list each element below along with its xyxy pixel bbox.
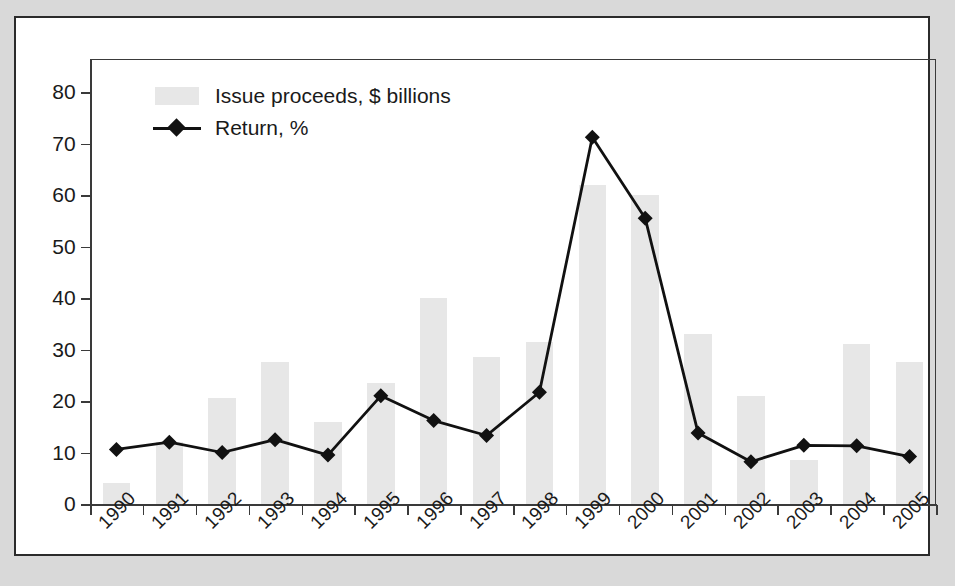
legend-item-label: Issue proceeds, $ billions	[215, 84, 451, 108]
x-axis-tick-mark	[883, 505, 885, 515]
y-axis-tick-mark	[81, 195, 90, 197]
x-axis-tick-mark	[619, 505, 621, 515]
x-axis-tick-mark	[249, 505, 251, 515]
chart-card: 01020304050607080 1990199119921993199419…	[14, 16, 930, 556]
x-axis-tick-mark	[672, 505, 674, 515]
diamond-marker-icon	[585, 130, 600, 145]
y-axis-tick-mark	[81, 298, 90, 300]
y-axis-tick-mark	[81, 144, 90, 146]
x-axis-tick-mark	[143, 505, 145, 515]
x-axis-tick-mark	[407, 505, 409, 515]
y-axis-tick-label: 60	[52, 183, 76, 207]
x-axis-tick-mark	[302, 505, 304, 515]
y-axis-tick-mark	[81, 92, 90, 94]
diamond-marker-icon	[167, 118, 185, 136]
x-axis-tick-mark	[196, 505, 198, 515]
x-axis-tick-mark	[90, 505, 92, 515]
legend-item-issue-proceeds: Issue proceeds, $ billions	[149, 80, 569, 112]
y-axis-tick-label: 30	[52, 338, 76, 362]
x-axis-tick-mark	[777, 505, 779, 515]
diamond-marker-icon	[215, 445, 230, 460]
y-axis-tick-label: 0	[64, 492, 76, 516]
legend-item-label: Return, %	[215, 116, 308, 140]
legend-item-return: Return, %	[149, 112, 569, 144]
figure-root: 01020304050607080 1990199119921993199419…	[0, 0, 955, 586]
y-axis-tick-label: 50	[52, 235, 76, 259]
diamond-marker-icon	[849, 438, 864, 453]
y-axis-tick-mark	[81, 453, 90, 455]
y-axis-tick-label: 80	[52, 80, 76, 104]
diamond-marker-icon	[902, 449, 917, 464]
legend-bar-swatch	[149, 87, 205, 105]
x-axis-tick-mark	[354, 505, 356, 515]
x-axis-tick-mark	[513, 505, 515, 515]
y-axis-tick-labels: 01020304050607080	[16, 18, 76, 586]
x-axis-tick-mark	[830, 505, 832, 515]
x-axis-tick-mark	[725, 505, 727, 515]
y-axis-tick-label: 10	[52, 441, 76, 465]
diamond-marker-icon	[691, 425, 706, 440]
diamond-marker-icon	[743, 454, 758, 469]
x-axis-tick-mark	[460, 505, 462, 515]
diamond-marker-icon	[638, 211, 653, 226]
y-axis-tick-mark	[81, 401, 90, 403]
y-axis-tick-label: 20	[52, 389, 76, 413]
x-axis-tick-mark	[936, 505, 938, 515]
y-axis-tick-mark	[81, 247, 90, 249]
diamond-marker-icon	[796, 438, 811, 453]
diamond-marker-icon	[268, 432, 283, 447]
legend-line-marker-swatch	[149, 119, 205, 137]
chart-legend: Issue proceeds, $ billions Return, %	[149, 80, 569, 144]
diamond-marker-icon	[426, 413, 441, 428]
y-axis-tick-label: 40	[52, 286, 76, 310]
x-axis-tick-mark	[566, 505, 568, 515]
y-axis-tick-mark	[81, 504, 90, 506]
y-axis-tick-label: 70	[52, 132, 76, 156]
diamond-marker-icon	[162, 435, 177, 450]
diamond-marker-icon	[109, 442, 124, 457]
return-line-path	[116, 137, 909, 461]
y-axis-tick-mark	[81, 350, 90, 352]
